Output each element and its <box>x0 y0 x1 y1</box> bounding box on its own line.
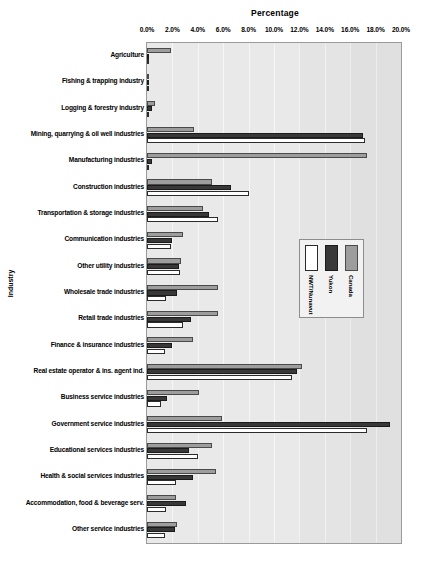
legend-swatch-canada <box>345 245 358 271</box>
bar-canada-4 <box>147 153 367 158</box>
category-label-3: Mining, quarrying & oil well industries <box>4 130 144 137</box>
category-label-9: Wholesale trade industries <box>4 288 144 295</box>
category-label-5: Construction industries <box>4 183 144 190</box>
bar-canada-5 <box>147 179 212 184</box>
category-label-6: Transportation & storage industries <box>4 209 144 216</box>
gridline-10 <box>401 43 402 543</box>
x-tick-0: 0.0% <box>140 26 155 33</box>
bar-nwt-8 <box>147 270 180 275</box>
bar-nwt-6 <box>147 217 218 222</box>
chart-legend: NWT/Nunavut Yukon Canada <box>299 239 364 318</box>
category-label-4: Manufacturing industries <box>4 156 144 163</box>
bar-canada-7 <box>147 232 183 237</box>
x-tick-8: 16.0% <box>341 26 359 33</box>
bar-canada-8 <box>147 258 181 263</box>
bar-yukon-4 <box>147 159 152 164</box>
bar-nwt-12 <box>147 375 292 380</box>
bar-yukon-17 <box>147 501 186 506</box>
bar-nwt-18 <box>147 533 165 538</box>
legend-label-canada: Canada <box>348 275 355 297</box>
bar-canada-3 <box>147 127 194 132</box>
category-label-18: Other service industries <box>4 525 144 532</box>
category-label-1: Fishing & trapping industry <box>4 77 144 84</box>
bar-nwt-15 <box>147 454 198 459</box>
x-tick-7: 14.0% <box>316 26 334 33</box>
legend-item-yukon: Yukon <box>325 245 338 293</box>
bar-nwt-0 <box>147 59 149 64</box>
category-label-10: Retail trade industries <box>4 314 144 321</box>
bar-yukon-13 <box>147 396 167 401</box>
category-label-0: Agriculture <box>4 51 144 58</box>
bar-canada-13 <box>147 390 199 395</box>
bar-nwt-9 <box>147 296 166 301</box>
category-label-13: Business service industries <box>4 393 144 400</box>
category-label-16: Health & social services industries <box>4 472 144 479</box>
bar-canada-10 <box>147 311 218 316</box>
bar-yukon-2 <box>147 106 152 111</box>
bar-nwt-16 <box>147 480 176 485</box>
legend-item-nwt: NWT/Nunavut <box>305 245 318 314</box>
gridline-3 <box>223 43 224 543</box>
y-axis-title: Industry <box>7 254 14 314</box>
bar-nwt-11 <box>147 349 165 354</box>
category-label-8: Other utility industries <box>4 262 144 269</box>
x-tick-3: 6.0% <box>216 26 231 33</box>
legend-item-canada: Canada <box>345 245 358 297</box>
bar-nwt-13 <box>147 401 161 406</box>
bar-nwt-5 <box>147 191 249 196</box>
bar-canada-17 <box>147 495 176 500</box>
bar-yukon-14 <box>147 422 390 427</box>
x-tick-10: 20.0% <box>392 26 410 33</box>
gridline-4 <box>249 43 250 543</box>
bar-yukon-12 <box>147 369 297 374</box>
bar-yukon-18 <box>147 527 175 532</box>
x-axis-title: Percentage <box>150 8 400 18</box>
legend-swatch-nwt <box>305 245 318 271</box>
y-axis-category-labels: AgricultureFishing & trapping industryLo… <box>0 42 144 544</box>
x-tick-2: 4.0% <box>190 26 205 33</box>
category-label-11: Finance & insurance industries <box>4 341 144 348</box>
plot-area: NWT/Nunavut Yukon Canada <box>146 42 402 544</box>
bar-nwt-3 <box>147 138 365 143</box>
legend-label-nwt: NWT/Nunavut <box>308 275 315 314</box>
bar-yukon-15 <box>147 448 189 453</box>
bar-canada-9 <box>147 285 218 290</box>
bar-yukon-1 <box>147 80 149 85</box>
bar-nwt-4 <box>147 165 149 170</box>
bar-yukon-7 <box>147 238 172 243</box>
bar-yukon-11 <box>147 343 172 348</box>
bar-nwt-7 <box>147 244 171 249</box>
bar-yukon-10 <box>147 317 191 322</box>
x-tick-9: 18.0% <box>366 26 384 33</box>
bar-canada-18 <box>147 522 177 527</box>
category-label-12: Real estate operator & ins. agent ind. <box>4 367 144 374</box>
bar-nwt-2 <box>147 112 149 117</box>
bar-canada-6 <box>147 206 203 211</box>
bar-yukon-9 <box>147 290 177 295</box>
category-label-2: Logging & forestry industry <box>4 104 144 111</box>
bar-yukon-5 <box>147 185 231 190</box>
chart-figure: Percentage 0.0%2.0%4.0%6.0%8.0%10.0%12.0… <box>0 0 434 562</box>
bar-yukon-16 <box>147 475 193 480</box>
x-tick-4: 8.0% <box>241 26 256 33</box>
x-tick-5: 10.0% <box>265 26 283 33</box>
category-label-14: Government service industries <box>4 420 144 427</box>
bar-nwt-14 <box>147 428 367 433</box>
bar-canada-1 <box>147 74 149 79</box>
category-label-15: Educational services industries <box>4 446 144 453</box>
bar-yukon-8 <box>147 264 179 269</box>
bar-canada-12 <box>147 364 302 369</box>
category-label-7: Communication industries <box>4 235 144 242</box>
x-tick-1: 2.0% <box>165 26 180 33</box>
bar-canada-15 <box>147 443 212 448</box>
gridline-5 <box>274 43 275 543</box>
bar-yukon-0 <box>147 54 149 59</box>
bar-canada-11 <box>147 337 193 342</box>
bar-nwt-10 <box>147 322 183 327</box>
legend-label-yukon: Yukon <box>328 275 335 293</box>
bar-canada-0 <box>147 48 171 53</box>
bar-canada-16 <box>147 469 216 474</box>
bar-yukon-3 <box>147 133 363 138</box>
x-axis-tick-labels: 0.0%2.0%4.0%6.0%8.0%10.0%12.0%14.0%16.0%… <box>0 26 434 38</box>
bar-canada-14 <box>147 416 222 421</box>
